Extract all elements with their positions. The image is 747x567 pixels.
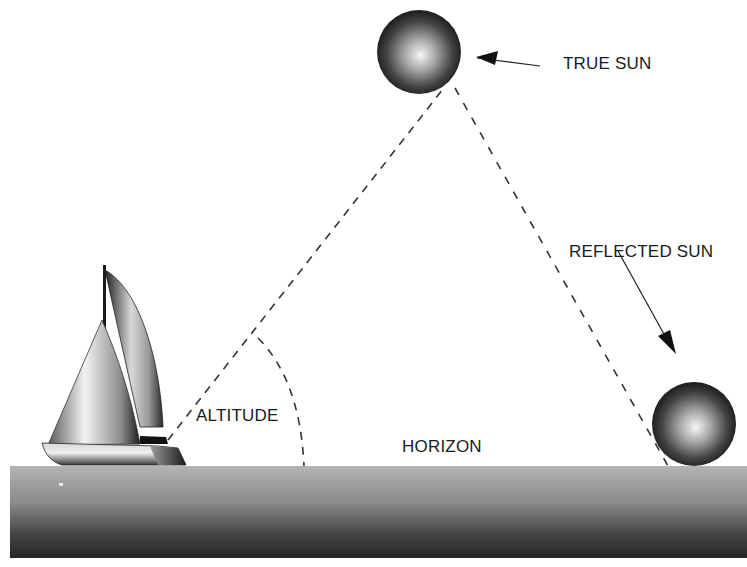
true-sun-arrowhead-icon bbox=[476, 51, 498, 65]
altitude-label: ALTITUDE bbox=[196, 406, 279, 426]
altitude-arc bbox=[258, 338, 304, 466]
reflected-sun-arrowhead-icon bbox=[658, 330, 676, 354]
reflected-sight-line bbox=[455, 88, 668, 466]
reflected-sun-icon bbox=[652, 382, 736, 466]
reflected-sun-arrow-icon bbox=[618, 251, 670, 345]
sea-surface bbox=[10, 466, 747, 558]
true-sun-sight-line bbox=[168, 89, 443, 440]
horizon-label: HORIZON bbox=[402, 437, 482, 457]
true-sun-label: TRUE SUN bbox=[563, 54, 652, 74]
sextant-altitude-diagram bbox=[0, 0, 747, 567]
sailboat-icon bbox=[42, 265, 186, 465]
cabin bbox=[140, 436, 168, 444]
sea-speck bbox=[59, 483, 63, 486]
reflected-sun-label: REFLECTED SUN bbox=[569, 242, 713, 262]
true-sun-icon bbox=[377, 10, 461, 94]
